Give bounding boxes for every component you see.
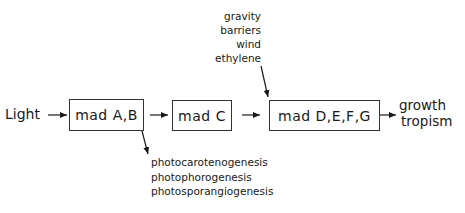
node-mad-d-e-f-g-label: mad D,E,F,G bbox=[278, 108, 371, 124]
diagram-canvas: Light mad A,B mad C mad D,E,F,G growth t… bbox=[0, 0, 465, 213]
input-light-label: Light bbox=[5, 106, 40, 122]
arrow-factors-to-maddefg bbox=[261, 66, 268, 97]
output-label: growth tropism bbox=[399, 97, 452, 129]
product-photophorogenesis: photophorogenesis bbox=[151, 170, 273, 185]
factor-ethylene: ethylene bbox=[215, 51, 261, 65]
output-line-growth: growth bbox=[399, 97, 452, 113]
factor-barriers: barriers bbox=[215, 23, 261, 37]
node-mad-c-label: mad C bbox=[178, 108, 226, 124]
factor-gravity: gravity bbox=[215, 9, 261, 23]
node-mad-a-b: mad A,B bbox=[69, 99, 144, 131]
environmental-factors-list: gravity barriers wind ethylene bbox=[215, 9, 261, 65]
product-photosporangiogenesis: photosporangiogenesis bbox=[151, 184, 273, 199]
node-mad-c: mad C bbox=[172, 100, 232, 131]
arrow-madab-to-products bbox=[142, 131, 148, 154]
factor-wind: wind bbox=[215, 37, 261, 51]
madab-products-list: photocarotenogenesis photophorogenesis p… bbox=[151, 155, 273, 199]
product-photocarotenogenesis: photocarotenogenesis bbox=[151, 155, 273, 170]
output-line-tropism: tropism bbox=[399, 113, 452, 129]
node-mad-a-b-label: mad A,B bbox=[75, 107, 138, 123]
node-mad-d-e-f-g: mad D,E,F,G bbox=[269, 100, 380, 131]
